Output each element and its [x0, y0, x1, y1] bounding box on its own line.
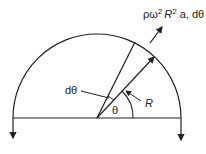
theta-label: θ — [112, 104, 118, 116]
dtheta-leader — [81, 91, 109, 98]
radius-label: R — [145, 97, 153, 109]
semicircle-arc — [13, 34, 181, 118]
force-label: ρω2R2 a, dθ — [143, 7, 204, 20]
dtheta-label: dθ — [65, 84, 77, 96]
ring-diagram: ρω2R2 a, dθ dθ θ R — [0, 0, 206, 154]
force-arrow — [150, 27, 162, 43]
